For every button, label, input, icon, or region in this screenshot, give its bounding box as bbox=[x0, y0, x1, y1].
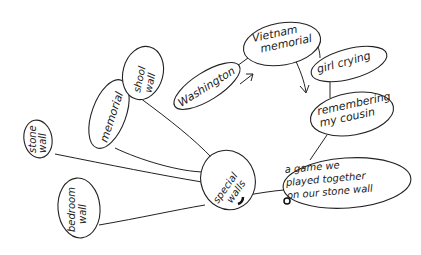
bedroom-wall-line-1: bedroom bbox=[66, 187, 77, 232]
node-game-stone-wall: a game we played together on our stone w… bbox=[281, 154, 412, 213]
node-bedroom-wall: bedroom wall bbox=[55, 176, 102, 239]
node-remembering-cousin: remembering my cousin bbox=[307, 86, 398, 142]
washington-to-vietnam-arrow bbox=[240, 74, 253, 84]
edge-remembering-game bbox=[310, 135, 327, 160]
edge-special-bedroom bbox=[99, 205, 205, 225]
node-special-walls: special walls bbox=[192, 143, 263, 218]
node-girl-crying: girl crying bbox=[307, 39, 390, 88]
node-washington: Washington bbox=[167, 54, 246, 118]
mind-map: stone wall bedroom wall memorial shool w… bbox=[0, 0, 421, 255]
node-stone-wall: stone wall bbox=[21, 118, 55, 160]
stone-wall-line-2: wall bbox=[37, 133, 48, 153]
bedroom-wall-line-2: wall bbox=[77, 204, 88, 224]
node-vietnam-memorial: Vietnam memorial bbox=[240, 17, 324, 72]
